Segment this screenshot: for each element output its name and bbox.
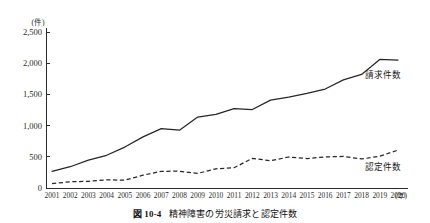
series-line-approvals	[52, 150, 398, 184]
x-tick-label: 2010	[209, 191, 224, 200]
series-label-claims: 請求件数	[365, 69, 401, 80]
x-tick-label: 2003	[81, 191, 96, 200]
figure-container: (件)2,5002,0001,5001,00050002001200220032…	[0, 0, 430, 223]
x-tick-label: 2006	[136, 191, 151, 200]
x-axis-unit-label: (年)	[395, 191, 407, 200]
x-tick-label: 2002	[63, 191, 78, 200]
series-line-claims	[52, 59, 398, 171]
figure-caption: 図 10-4精神障害の労災請求と認定件数	[0, 207, 430, 220]
x-tick-label: 2015	[300, 191, 315, 200]
x-tick-label: 2013	[263, 191, 278, 200]
y-tick-label: 1,000	[23, 121, 42, 131]
x-tick-label: 2014	[281, 191, 296, 200]
plot-area: (件)2,5002,0001,5001,00050002001200220032…	[23, 17, 408, 200]
x-tick-label: 2017	[336, 191, 351, 200]
x-tick-label: 2001	[45, 191, 60, 200]
caption-number: 図 10-4	[133, 209, 162, 219]
x-tick-label: 2012	[245, 191, 260, 200]
line-chart: (件)2,5002,0001,5001,00050002001200220032…	[0, 0, 430, 223]
y-tick-label: 2,500	[23, 27, 42, 37]
x-tick-label: 2011	[227, 191, 242, 200]
y-tick-label: 0	[38, 183, 42, 193]
x-tick-label: 2007	[154, 191, 169, 200]
y-axis-unit-label: (件)	[31, 17, 45, 27]
x-tick-label: 2009	[190, 191, 205, 200]
x-tick-label: 2005	[117, 191, 132, 200]
y-tick-label: 1,500	[23, 89, 42, 99]
x-tick-label: 2016	[318, 191, 333, 200]
x-tick-label: 2008	[172, 191, 187, 200]
x-tick-label: 2019	[372, 191, 387, 200]
x-tick-label: 2018	[354, 191, 369, 200]
x-tick-label: 2004	[99, 191, 114, 200]
caption-title: 精神障害の労災請求と認定件数	[169, 209, 298, 219]
y-tick-label: 2,000	[23, 58, 42, 68]
y-tick-label: 500	[29, 152, 42, 162]
series-label-approvals: 認定件数	[365, 161, 401, 172]
